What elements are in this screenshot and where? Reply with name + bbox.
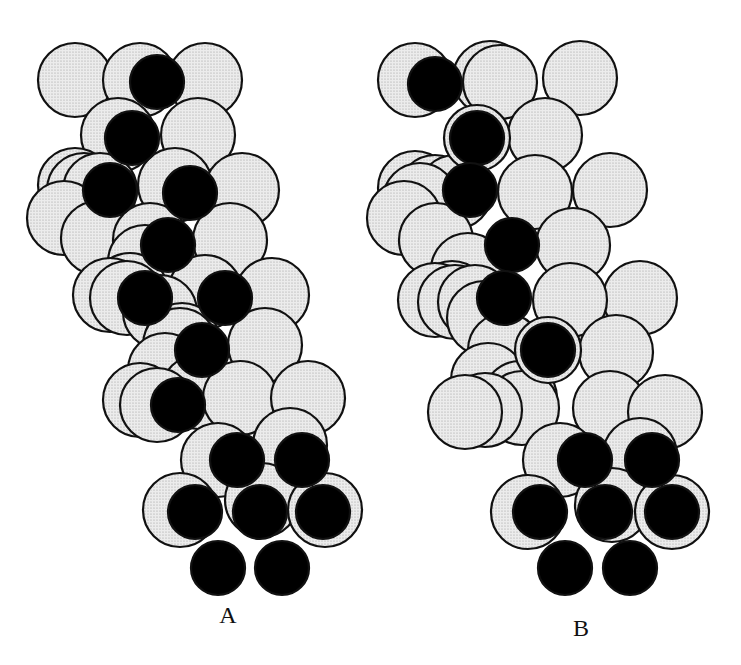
dark-atom bbox=[168, 485, 222, 539]
model-b bbox=[367, 41, 709, 595]
dark-atom bbox=[233, 485, 287, 539]
dark-atom bbox=[521, 323, 575, 377]
light-atom bbox=[428, 375, 502, 449]
molecular-models-figure bbox=[0, 0, 741, 665]
model-a bbox=[27, 43, 362, 595]
dark-atom bbox=[105, 111, 159, 165]
dark-atom bbox=[513, 485, 567, 539]
dark-atom bbox=[538, 541, 592, 595]
dark-atom bbox=[578, 485, 632, 539]
dark-atom bbox=[141, 218, 195, 272]
dark-atom bbox=[558, 433, 612, 487]
panel-label-b: B bbox=[573, 615, 589, 642]
panel-label-a: A bbox=[219, 602, 236, 629]
dark-atom bbox=[645, 485, 699, 539]
dark-atom bbox=[443, 163, 497, 217]
dark-atom bbox=[477, 271, 531, 325]
dark-atom bbox=[198, 271, 252, 325]
dark-atom bbox=[450, 111, 504, 165]
dark-atom bbox=[118, 271, 172, 325]
dark-atom bbox=[191, 541, 245, 595]
dark-atom bbox=[83, 163, 137, 217]
dark-atom bbox=[210, 433, 264, 487]
dark-atom bbox=[408, 57, 462, 111]
dark-atom bbox=[130, 55, 184, 109]
dark-atom bbox=[603, 541, 657, 595]
dark-atom bbox=[163, 166, 217, 220]
dark-atom bbox=[275, 433, 329, 487]
dark-atom bbox=[485, 218, 539, 272]
dark-atom bbox=[151, 378, 205, 432]
dark-atom bbox=[625, 433, 679, 487]
dark-atom bbox=[255, 541, 309, 595]
dark-atom bbox=[296, 485, 350, 539]
dark-atom bbox=[175, 323, 229, 377]
